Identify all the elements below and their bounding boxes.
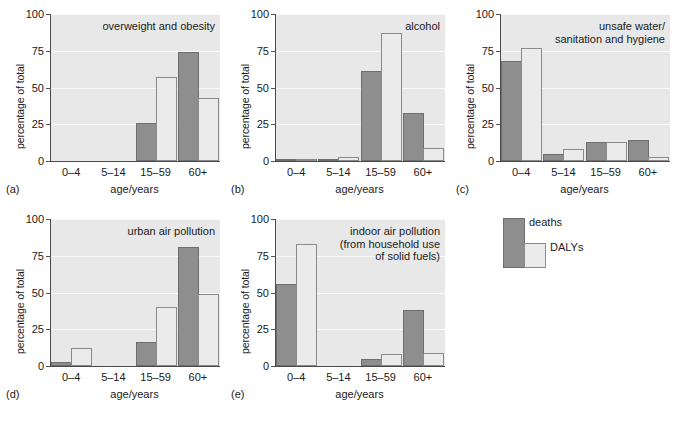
legend-label-deaths: deaths [529,216,562,228]
x-axis-tick-label: 0–4 [62,166,80,178]
y-axis-tick-mark [46,124,50,125]
x-axis-tick-label: 15–59 [140,371,171,383]
bar-deaths [318,159,339,161]
x-axis-tick-label: 0–4 [287,166,305,178]
y-axis-tick-label: 50 [247,287,269,299]
bar-dalys [521,48,542,161]
y-axis-tick-mark [46,88,50,89]
x-axis-title: age/years [275,388,444,400]
y-axis-tick-label: 0 [247,360,269,372]
y-axis-tick-mark [271,14,275,15]
bar-dalys [71,348,92,366]
plot-area [50,219,220,367]
bar-deaths [403,113,424,162]
y-axis-tick-label: 100 [247,213,269,225]
gridline [276,88,445,89]
gridline [276,124,445,125]
bar-dalys [156,77,177,161]
bar-deaths [543,154,564,161]
gridline [276,219,445,220]
x-axis-tick-label: 15–59 [365,166,396,178]
bar-deaths [178,52,199,161]
gridline [501,51,670,52]
plot-area [50,14,220,162]
y-axis-tick-mark [271,88,275,89]
bar-deaths [136,342,157,366]
y-axis-tick-mark [46,219,50,220]
y-axis-tick-mark [496,124,500,125]
bar-deaths [403,310,424,366]
plot-area [275,14,445,162]
y-axis-tick-mark [46,329,50,330]
gridline [276,14,445,15]
bar-dalys [381,354,402,366]
gridline [276,293,445,294]
chart-panel-2: 0255075100percentage of total0–45–1415–5… [0,0,692,424]
y-axis-tick-mark [271,124,275,125]
bar-deaths [276,284,297,366]
chart-panel-1: 0255075100percentage of total0–45–1415–5… [0,0,692,424]
y-axis-tick-mark [271,161,275,162]
y-axis-tick-mark [46,14,50,15]
y-axis-tick-mark [496,51,500,52]
bar-dalys [338,157,359,161]
x-axis-title: age/years [275,183,444,195]
x-axis-title: age/years [50,388,219,400]
y-axis-tick-label: 50 [22,287,44,299]
x-axis-tick-label: 60+ [414,166,433,178]
y-axis-tick-label: 50 [247,82,269,94]
bar-deaths [51,362,72,366]
panel-letter: (b) [231,183,244,195]
bar-dalys [563,149,584,161]
y-axis-tick-label: 0 [472,155,494,167]
x-axis-title: age/years [500,183,669,195]
panel-letter: (a) [6,183,19,195]
bar-deaths [361,71,382,161]
y-axis-tick-label: 75 [22,250,44,262]
x-axis-tick-label: 5–14 [326,166,350,178]
bar-dalys [423,148,444,161]
bar-dalys [296,244,317,366]
gridline [51,219,220,220]
y-axis-tick-mark [271,329,275,330]
gridline [51,329,220,330]
bar-dalys [423,353,444,366]
y-axis-tick-mark [271,219,275,220]
bar-dalys [198,294,219,366]
panel-title: indoor air pollution (from household use… [285,225,440,263]
x-axis-tick-label: 0–4 [512,166,530,178]
y-axis-tick-mark [46,256,50,257]
y-axis-tick-mark [271,293,275,294]
x-axis-tick-label: 5–14 [326,371,350,383]
y-axis-tick-mark [496,14,500,15]
y-axis-tick-label: 25 [22,323,44,335]
y-axis-tick-label: 100 [247,8,269,20]
panel-letter: (e) [231,388,244,400]
y-axis-title: percentage of total [464,64,476,149]
bar-deaths [178,247,199,366]
bar-dalys [381,33,402,161]
chart-panel-5: 0255075100percentage of total0–45–1415–5… [0,0,692,424]
y-axis-tick-label: 75 [472,45,494,57]
x-axis-tick-label: 60+ [189,371,208,383]
x-axis-tick-label: 60+ [189,166,208,178]
gridline [51,256,220,257]
y-axis-title: percentage of total [14,269,26,354]
y-axis-tick-label: 25 [22,118,44,130]
x-axis-title: age/years [50,183,219,195]
y-axis-tick-label: 25 [247,118,269,130]
y-axis-tick-mark [46,51,50,52]
gridline [501,88,670,89]
y-axis-tick-mark [46,293,50,294]
bar-deaths [586,142,607,161]
y-axis-tick-label: 100 [22,8,44,20]
gridline [51,51,220,52]
y-axis-tick-label: 50 [472,82,494,94]
plot-area [275,219,445,367]
panel-letter: (d) [6,388,19,400]
plot-area [500,14,670,162]
y-axis-tick-label: 25 [472,118,494,130]
bar-deaths [361,359,382,366]
y-axis-tick-mark [46,366,50,367]
legend-swatch-dalys [524,243,546,268]
